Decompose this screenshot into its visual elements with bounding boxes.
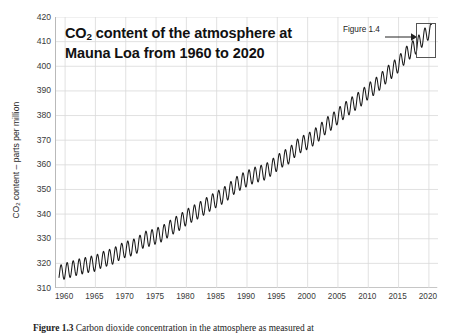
x-tick-label: 2020	[408, 293, 448, 301]
caption-label: Figure 1.3	[33, 323, 73, 333]
caption-text: Carbon dioxide concentration in the atmo…	[73, 323, 313, 333]
co2-figure: CO2 content of the atmosphere at Mauna L…	[0, 0, 452, 336]
x-axis-ticks: 1960196519701975198019851990199520002005…	[0, 0, 452, 336]
figure-caption: Figure 1.3 Carbon dioxide concentration …	[33, 322, 425, 335]
